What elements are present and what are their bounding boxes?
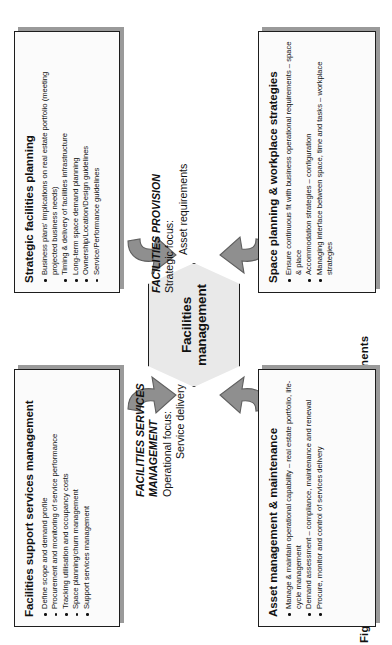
- focus-subtitle: Strategic focus:: [163, 78, 176, 293]
- box-strategic-facilities-planning: Strategic facilities planning Business p…: [14, 31, 120, 293]
- focus-title-line1: FACILITIES SERVICES: [134, 287, 147, 497]
- box-space-planning-workplace-strategies: Space planning & workplace strategies En…: [258, 31, 376, 293]
- box-title: Strategic facilities planning: [22, 40, 35, 283]
- focus-title-line1: FACILITIES PROVISION: [150, 78, 163, 293]
- bullet-item: Procurement and monitoring of service pe…: [50, 378, 60, 617]
- box-bullet-list: Manage & maintain operational capability…: [284, 378, 325, 617]
- box-asset-management-maintenance: Asset management & maintenance Manage & …: [258, 369, 376, 627]
- bullet-item: Define scope and demand profile: [40, 378, 50, 617]
- hexagon-label-line2: management: [194, 284, 209, 366]
- focus-subtitle-value: Service delivery: [174, 384, 187, 497]
- box-bullet-list: Ensure continuous fit with business oper…: [284, 40, 334, 283]
- bullet-item: Accommodation strategies – configuration: [304, 40, 314, 283]
- focus-label-facilities-provision: FACILITIES PROVISION Strategic focus: As…: [150, 78, 190, 293]
- bullet-item: Timing & delivery of facilities infrastr…: [60, 40, 70, 283]
- bullet-item: Long-term space demand planning: [71, 40, 81, 283]
- bullet-item: Managing interface between space, time a…: [315, 40, 335, 283]
- focus-title-line2: MANAGEMENT: [147, 287, 160, 497]
- box-title: Facilities support services management: [22, 378, 35, 617]
- focus-subtitle-value: Asset requirements: [177, 164, 190, 293]
- bullet-item: Service/Performance guidelines: [92, 40, 102, 283]
- box-facilities-support-services-management: Facilities support services management D…: [14, 369, 120, 627]
- box-bullet-list: Business plans' implications on real est…: [40, 40, 102, 283]
- bullet-item: Ownership/Location/Design guidelines: [81, 40, 91, 283]
- figure-stage: Figure 17.6: Facilities management – mai…: [0, 0, 392, 645]
- bullet-item: Tracking utilisation and occupancy costs: [61, 378, 71, 617]
- box-bullet-list: Define scope and demand profile Procurem…: [40, 378, 92, 617]
- focus-subtitle: Operational focus:: [161, 287, 174, 497]
- bullet-item: Demand assessment – compliance, maintena…: [304, 378, 314, 617]
- figure-page: Figure 17.6: Facilities management – mai…: [0, 0, 392, 645]
- bullet-item: Manage & maintain operational capability…: [284, 378, 304, 617]
- box-title: Asset management & maintenance: [266, 378, 279, 617]
- bullet-item: Support services management: [82, 378, 92, 617]
- bullet-item: Space planning/churn management: [71, 378, 81, 617]
- bullet-item: Business plans' implications on real est…: [40, 40, 60, 283]
- focus-label-facilities-services-management: FACILITIES SERVICES MANAGEMENT Operation…: [134, 287, 187, 497]
- box-title: Space planning & workplace strategies: [266, 40, 279, 283]
- bullet-item: Procure, monitor and control of services…: [315, 378, 325, 617]
- bullet-item: Ensure continuous fit with business oper…: [284, 40, 304, 283]
